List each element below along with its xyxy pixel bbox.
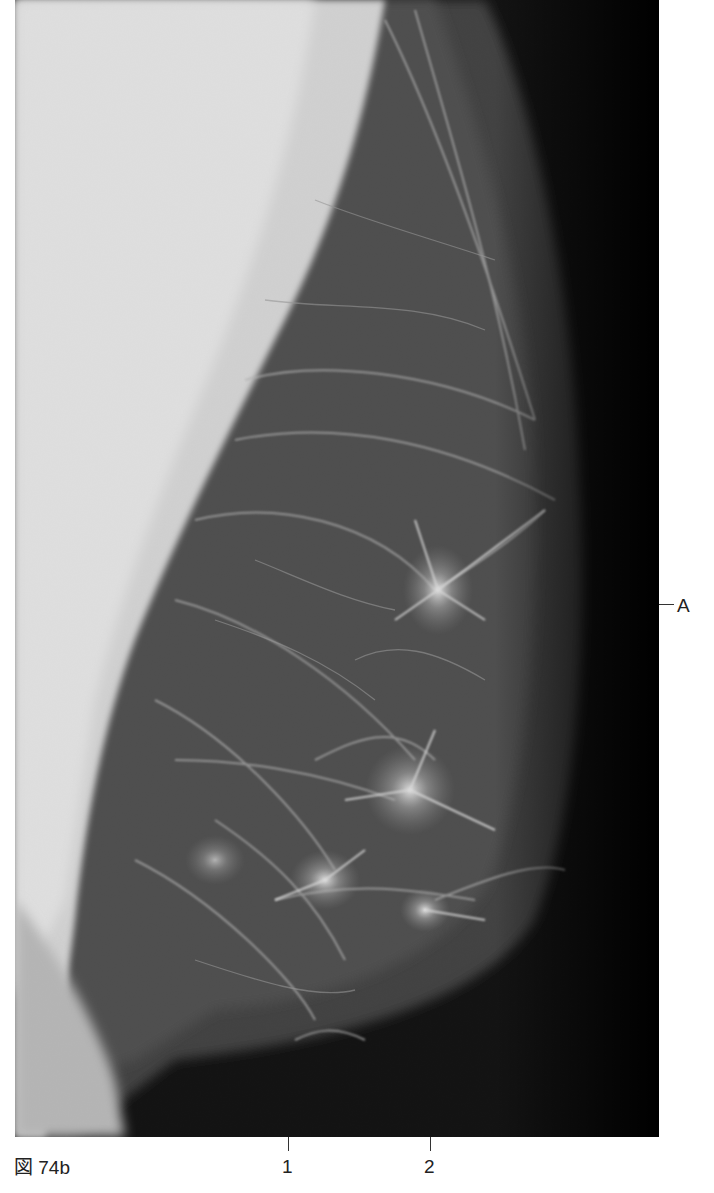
marker-2-tick (430, 1137, 431, 1151)
marker-2-label: 2 (424, 1157, 435, 1176)
marker-1-label: 1 (282, 1157, 293, 1176)
figure-caption: 図 74b (14, 1158, 70, 1177)
marker-a-tick (659, 604, 674, 605)
marker-a-label: A (677, 596, 690, 615)
marker-1-tick (288, 1137, 289, 1151)
mammogram-image (15, 0, 659, 1137)
